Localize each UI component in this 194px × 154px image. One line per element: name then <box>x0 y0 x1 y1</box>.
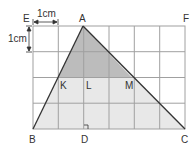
point-label-c: C <box>181 134 188 145</box>
scale-label-horizontal: 1cm <box>37 8 56 19</box>
scale-horizontal <box>33 19 58 25</box>
scale-label-vertical: 1cm <box>8 33 27 44</box>
point-label-a: A <box>79 13 86 24</box>
point-label-f: F <box>183 13 189 24</box>
point-label-l: L <box>86 80 92 91</box>
geometry-figure: 1cm 1cm E A F K L M B D C <box>0 0 194 154</box>
point-label-b: B <box>29 134 36 145</box>
point-label-e: E <box>23 13 30 24</box>
point-label-d: D <box>81 134 88 145</box>
point-label-k: K <box>60 80 67 91</box>
point-label-m: M <box>125 80 133 91</box>
